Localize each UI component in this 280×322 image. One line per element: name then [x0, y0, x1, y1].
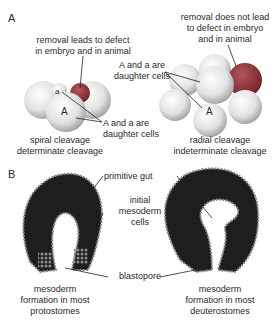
radial-daughter-note: A and a are daughter cells	[112, 60, 172, 82]
radial-cleavage-embryo	[159, 54, 262, 137]
blastopore-label: blastopore	[110, 271, 170, 282]
spiral-cell-a-large: A	[61, 106, 68, 117]
radial-removal-note: removal does not lead to defect in embry…	[170, 12, 280, 45]
spiral-daughter-note: A and a are daughter cells	[103, 118, 159, 140]
deuterostome-caption: mesoderm formation in most deuterostomes	[170, 284, 270, 317]
primitive-gut-label: primitive gut	[104, 171, 153, 182]
radial-cell-a-large: A	[206, 106, 213, 117]
protostome-embryo	[23, 174, 102, 272]
spiral-cell-a-small: a	[55, 86, 59, 97]
deuterostome-embryo	[165, 168, 258, 272]
protostome-caption: mesoderm formation in most protostomes	[10, 284, 100, 317]
radial-caption: radial cleavage indeterminate cleavage	[165, 135, 275, 157]
initial-mesoderm-label: initial mesoderm cells	[110, 195, 170, 228]
spiral-caption: spiral cleavage determinate cleavage	[10, 135, 110, 157]
panel-label-b: B	[8, 168, 15, 180]
panel-label-a: A	[8, 12, 15, 24]
spiral-removal-note: removal leads to defect in embryo and in…	[33, 35, 133, 57]
